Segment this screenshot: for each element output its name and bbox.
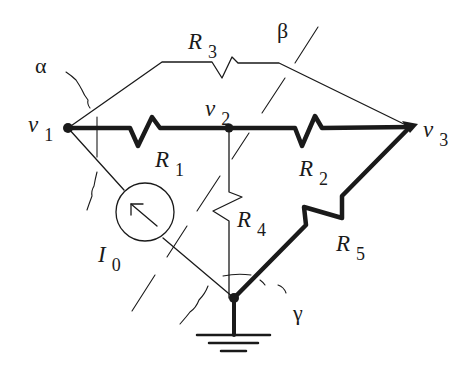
r5-symbol: R <box>336 231 350 256</box>
label-r5: R5 <box>336 232 365 255</box>
label-r1: R1 <box>155 148 184 171</box>
r4-symbol: R <box>237 207 251 232</box>
node-v3-symbol: v <box>423 117 433 142</box>
label-r2: R2 <box>299 157 328 180</box>
r5-subscript: 5 <box>356 244 365 264</box>
i0-symbol: I <box>98 242 106 267</box>
node-v1-subscript: 1 <box>44 125 53 145</box>
resistor-r2-wire <box>229 116 410 146</box>
i0-subscript: 0 <box>112 255 121 275</box>
cutset-alpha-line <box>66 72 97 210</box>
node-v1-dot <box>63 123 73 133</box>
r3-symbol: R <box>188 29 202 54</box>
label-i0: I0 <box>98 243 121 266</box>
r2-subscript: 2 <box>319 169 328 189</box>
node-label-v1: v1 <box>28 113 53 136</box>
r1-subscript: 1 <box>175 160 184 180</box>
arrow-up-left-icon <box>131 204 157 226</box>
resistor-r1-wire <box>68 117 229 146</box>
ground-icon <box>197 298 270 351</box>
cutset-label-gamma: γ <box>293 302 303 324</box>
node-v1-symbol: v <box>28 112 38 137</box>
r2-symbol: R <box>299 156 313 181</box>
node-v2-symbol: v <box>205 96 215 121</box>
node-v3-subscript: 3 <box>439 130 448 150</box>
cutset-label-alpha: α <box>35 55 47 77</box>
node-v2-subscript: 2 <box>221 109 230 129</box>
node-ground-dot <box>229 293 239 303</box>
r3-subscript: 3 <box>208 42 217 62</box>
resistor-r3-wire <box>68 57 410 128</box>
r4-subscript: 4 <box>257 220 266 240</box>
circuit-svg <box>0 0 469 373</box>
cutset-label-beta: β <box>277 20 288 42</box>
node-label-v2: v2 <box>205 97 230 120</box>
r1-symbol: R <box>155 147 169 172</box>
label-r3: R3 <box>188 30 217 53</box>
current-source-i0-wire <box>68 128 234 298</box>
node-label-v3: v3 <box>423 118 448 141</box>
circuit-diagram: v1 v2 v3 R3 R1 R2 R4 R5 I0 α β γ <box>0 0 469 373</box>
label-r4: R4 <box>237 208 266 231</box>
current-source-i0-circle <box>116 183 174 241</box>
